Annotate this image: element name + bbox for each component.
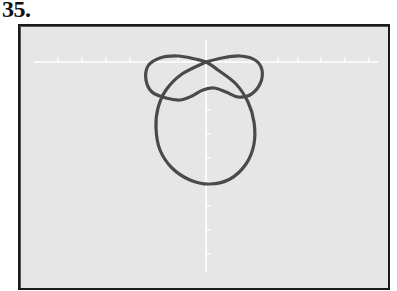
polar-curve — [146, 56, 263, 184]
graph-plot — [0, 0, 397, 291]
axes — [34, 40, 378, 272]
